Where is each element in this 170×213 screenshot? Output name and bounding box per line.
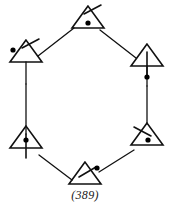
nodes-layer: [10, 5, 163, 184]
triangle-top-inner-dot: [85, 20, 90, 25]
edge-bottom-lower-left: [39, 155, 72, 180]
edge-top-upper-right: [100, 30, 136, 58]
triangle-top: [72, 5, 104, 28]
edges-layer: [26, 28, 147, 180]
triangle-lower-right: [131, 123, 163, 145]
figure-container: (389): [0, 0, 170, 213]
triangle-upper-right-marked-dot: [144, 74, 149, 79]
triangle-bottom-tick-mark: [79, 167, 96, 177]
triangle-bottom-marked-dot: [94, 165, 99, 170]
hexagon-triangle-diagram: [0, 0, 170, 213]
triangle-upper-left-marked-dot: [10, 47, 15, 52]
edge-upper-left-top: [38, 28, 74, 56]
triangle-bottom: [69, 162, 101, 184]
triangle-lower-right-inner-dot: [145, 137, 150, 142]
triangle-upper-right: [131, 44, 163, 86]
figure-caption: (389): [0, 188, 170, 202]
edge-lower-right-bottom: [99, 150, 134, 172]
triangle-lower-left-inner-dot: [23, 137, 28, 142]
triangle-upper-left: [10, 39, 42, 84]
